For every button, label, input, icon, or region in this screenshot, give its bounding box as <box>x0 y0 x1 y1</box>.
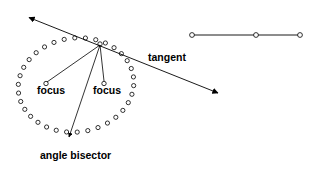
ellipse-tangent-diagram: tangent focus focus angle bisector <box>0 0 315 176</box>
tangent-label: tangent <box>148 51 186 63</box>
focus-left-label: focus <box>37 84 65 96</box>
segment-point-marker <box>190 33 195 38</box>
focus-right-label: focus <box>93 84 121 96</box>
segment-point-marker <box>254 33 259 38</box>
segment-point-marker <box>298 33 303 38</box>
angle-bisector-label: angle bisector <box>40 149 111 161</box>
